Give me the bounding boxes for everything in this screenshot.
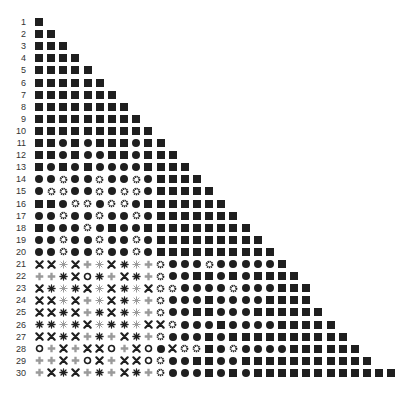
filled-square-icon	[351, 345, 359, 353]
filled-square-icon	[327, 321, 335, 329]
filled-circle-icon	[254, 345, 262, 353]
filled-circle-icon	[132, 139, 140, 147]
filled-square-icon	[205, 333, 213, 341]
filled-square-icon	[193, 212, 201, 220]
dark-asterisk-icon	[120, 320, 129, 329]
filled-circle-icon	[169, 333, 177, 341]
gear-ring-icon	[180, 344, 189, 353]
cross-icon	[71, 308, 80, 317]
filled-square-icon	[290, 333, 298, 341]
filled-square-icon	[229, 369, 237, 377]
filled-square-icon	[157, 187, 165, 195]
filled-circle-icon	[229, 357, 237, 365]
filled-square-icon	[254, 333, 262, 341]
filled-square-icon	[47, 91, 55, 99]
row-label: 25	[0, 307, 26, 317]
filled-square-icon	[47, 42, 55, 50]
gear-ring-icon	[156, 284, 165, 293]
filled-square-icon	[35, 18, 43, 26]
row-label: 6	[0, 78, 26, 88]
filled-square-icon	[205, 308, 213, 316]
cross-icon	[35, 332, 44, 341]
filled-circle-icon	[193, 321, 201, 329]
filled-circle-icon	[242, 284, 250, 292]
gear-ring-icon	[192, 344, 201, 353]
row-label: 3	[0, 41, 26, 51]
filled-square-icon	[314, 333, 322, 341]
filled-circle-icon	[120, 175, 128, 183]
light-asterisk-icon	[132, 284, 141, 293]
cross-icon	[120, 356, 129, 365]
filled-square-icon	[205, 212, 213, 220]
light-asterisk-icon	[95, 320, 104, 329]
filled-circle-icon	[254, 321, 262, 329]
row-label: 2	[0, 29, 26, 39]
filled-circle-icon	[35, 212, 43, 220]
filled-square-icon	[157, 236, 165, 244]
filled-square-icon	[278, 333, 286, 341]
plus-icon	[144, 296, 153, 305]
filled-square-icon	[59, 91, 67, 99]
filled-square-icon	[108, 103, 116, 111]
filled-square-icon	[217, 248, 225, 256]
filled-circle-icon	[242, 345, 250, 353]
filled-square-icon	[59, 103, 67, 111]
filled-square-icon	[144, 200, 152, 208]
filled-circle-icon	[217, 345, 225, 353]
dark-asterisk-icon	[132, 368, 141, 377]
filled-circle-icon	[229, 260, 237, 268]
plus-icon	[35, 368, 44, 377]
filled-square-icon	[181, 236, 189, 244]
filled-square-icon	[278, 272, 286, 280]
filled-square-icon	[35, 54, 43, 62]
gear-ring-icon	[95, 175, 104, 184]
filled-circle-icon	[217, 284, 225, 292]
filled-square-icon	[278, 308, 286, 316]
cross-icon	[83, 284, 92, 293]
gear-ring-icon	[59, 235, 68, 244]
filled-circle-icon	[84, 187, 92, 195]
filled-circle-icon	[71, 175, 79, 183]
filled-circle-icon	[266, 260, 274, 268]
cross-icon	[71, 332, 80, 341]
filled-circle-icon	[47, 212, 55, 220]
filled-circle-icon	[120, 236, 128, 244]
filled-square-icon	[181, 187, 189, 195]
dark-asterisk-icon	[71, 284, 80, 293]
cross-icon	[107, 260, 116, 269]
gear-ring-icon	[156, 308, 165, 317]
filled-square-icon	[84, 163, 92, 171]
cross-icon	[120, 368, 129, 377]
filled-square-icon	[181, 224, 189, 232]
cross-icon	[71, 260, 80, 269]
filled-square-icon	[290, 357, 298, 365]
cross-icon	[107, 284, 116, 293]
filled-square-icon	[169, 212, 177, 220]
filled-square-icon	[71, 103, 79, 111]
filled-circle-icon	[96, 151, 104, 159]
filled-square-icon	[181, 212, 189, 220]
filled-circle-icon	[84, 248, 92, 256]
row-label: 19	[0, 235, 26, 245]
filled-square-icon	[144, 127, 152, 135]
gear-ring-icon	[132, 247, 141, 256]
filled-square-icon	[266, 308, 274, 316]
filled-square-icon	[217, 212, 225, 220]
gear-ring-icon	[59, 187, 68, 196]
filled-square-icon	[84, 91, 92, 99]
filled-circle-icon	[84, 175, 92, 183]
filled-square-icon	[157, 212, 165, 220]
filled-square-icon	[157, 224, 165, 232]
open-ring-icon	[107, 344, 116, 353]
filled-square-icon	[96, 79, 104, 87]
cross-icon	[35, 260, 44, 269]
filled-square-icon	[169, 187, 177, 195]
open-ring-icon	[144, 344, 153, 353]
dark-asterisk-icon	[71, 320, 80, 329]
filled-circle-icon	[120, 224, 128, 232]
filled-square-icon	[314, 369, 322, 377]
filled-square-icon	[35, 163, 43, 171]
light-asterisk-icon	[59, 296, 68, 305]
filled-square-icon	[193, 200, 201, 208]
filled-square-icon	[254, 236, 262, 244]
